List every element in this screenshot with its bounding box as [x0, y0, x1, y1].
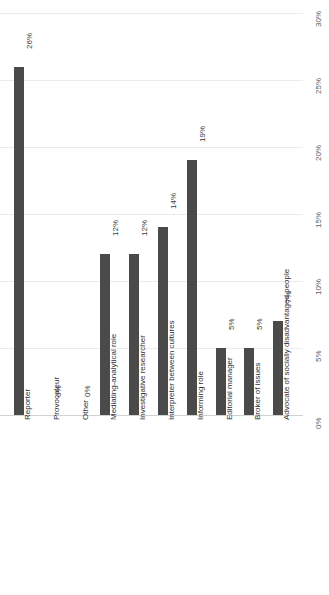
axis-tick-label: 5% [314, 350, 323, 362]
category-label: Advocate of socially disadvantaged peopl… [282, 269, 291, 420]
bar-value-label: 12% [111, 220, 120, 236]
bar-value-label: 12% [140, 220, 149, 236]
axis-tick-label: 20% [314, 145, 323, 161]
bar [14, 67, 24, 415]
bar-value-label: 5% [255, 318, 264, 330]
bar-column: 26% [14, 0, 24, 415]
bar-value-label: 5% [227, 318, 236, 330]
bar-column: 19% [187, 0, 197, 415]
category-label: Reporter [23, 389, 32, 420]
bar-series: 26%0%0%12%12%14%19%5%5%7% [0, 0, 303, 415]
bar-column: 0% [43, 0, 53, 415]
bar-column: 5% [244, 0, 254, 415]
axis-tick-label: 15% [314, 212, 323, 228]
axis-tick-label: 30% [314, 11, 323, 27]
bar-value-label: 19% [198, 126, 207, 142]
category-label: Investigative researcher [138, 335, 147, 420]
bar-value-label: 26% [25, 33, 34, 49]
category-label: Informing role [196, 371, 205, 420]
axis-tick-label: 0% [314, 417, 323, 429]
axis-tick-label: 25% [314, 78, 323, 94]
category-label: Mediating-analytical role [109, 334, 118, 420]
bar-column: 0% [72, 0, 82, 415]
category-label: Editorial manager [225, 357, 234, 420]
bar-chart: 0%5%10%15%20%25%30% 26%0%0%12%12%14%19%5… [0, 0, 329, 595]
bar-value-label: 0% [83, 385, 92, 397]
category-label: Broker of issues [253, 363, 262, 420]
bar-value-label: 14% [169, 193, 178, 209]
bar-column: 5% [216, 0, 226, 415]
axis-tick-label: 10% [314, 279, 323, 295]
category-label: Provocateur [52, 377, 61, 420]
category-label: Interpreter between cultures [167, 320, 176, 420]
category-label: Other [81, 400, 90, 420]
